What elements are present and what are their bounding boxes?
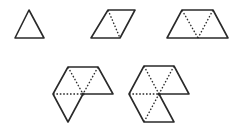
triangle-sequence-diagram — [0, 0, 244, 134]
shape-outline — [91, 10, 135, 38]
shape-outline — [167, 10, 228, 38]
internal-dotted-edge — [182, 10, 198, 38]
shape-two-triangles-rhombus — [91, 10, 135, 38]
internal-dotted-edge — [83, 67, 98, 94]
internal-dotted-edge — [68, 67, 83, 94]
internal-dotted-edge — [144, 94, 159, 122]
internal-dotted-edge — [198, 10, 213, 38]
shape-four-triangles — [53, 67, 113, 122]
internal-dotted-edge — [144, 66, 159, 94]
shape-outline — [15, 10, 44, 38]
center-vertex-dot — [81, 92, 84, 95]
shape-one-triangle — [15, 10, 44, 38]
shape-five-triangles — [129, 66, 189, 122]
shape-three-triangles-trapezoid — [167, 10, 228, 38]
internal-dotted-edge — [108, 10, 120, 38]
internal-dotted-edge — [159, 66, 174, 94]
center-vertex-dot — [157, 92, 160, 95]
